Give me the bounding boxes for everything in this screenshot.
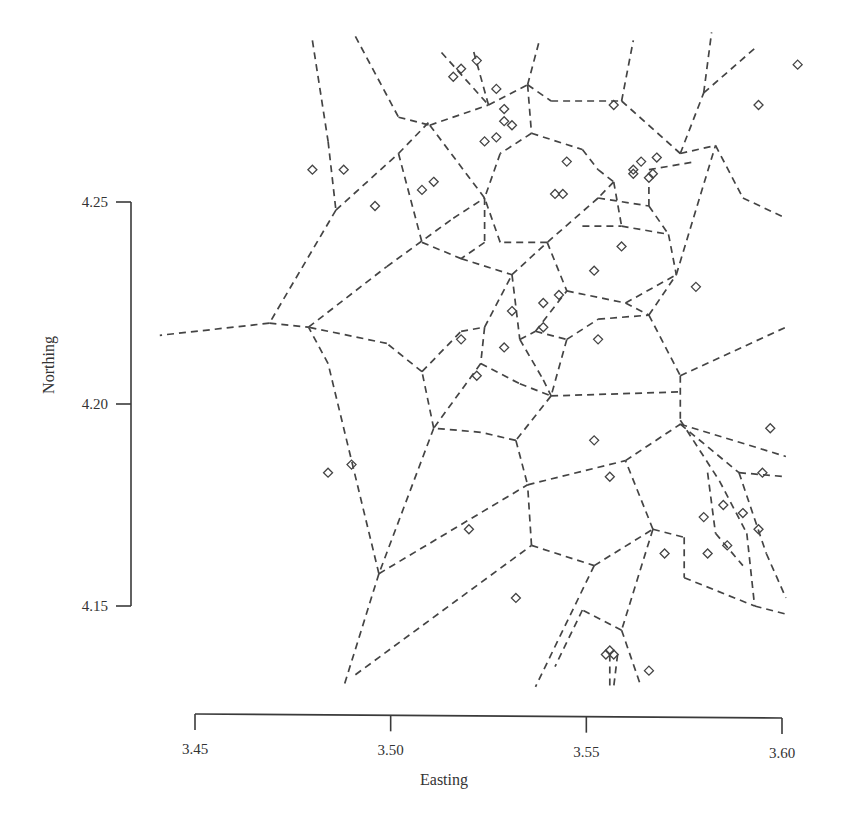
voronoi-edge [582,150,598,170]
x-axis: 3.453.503.553.60 [182,714,795,761]
site-marker-diamond-icon [605,472,614,481]
voronoi-edge [434,428,481,432]
voronoi-edge [344,574,379,687]
site-marker-diamond-icon [617,242,626,251]
voronoi-edge [684,578,754,606]
voronoi-edge [614,182,622,226]
voronoi-edge [387,343,422,371]
site-marker-diamond-icon [691,282,700,291]
voronoi-edge [567,319,598,339]
site-marker-diamond-icon [492,84,501,93]
site-marker-diamond-icon [703,549,712,558]
voronoi-edge [336,154,399,211]
voronoi-edge [680,424,786,456]
voronoi-edge [594,529,653,565]
voronoi-edge [485,198,501,242]
voronoi-edge [481,364,520,384]
voronoi-edge [716,145,743,198]
voronoi-edge [626,303,649,315]
voronoi-chart: 4.154.204.25 3.453.503.553.60 Northing E… [0,0,842,828]
site-marker-diamond-icon [507,121,516,130]
voronoi-edge [676,145,715,274]
voronoi-edge [461,327,485,331]
site-marker-diamond-icon [472,371,481,380]
voronoi-edge [481,432,516,440]
voronoi-edge [528,85,532,134]
voronoi-edge [355,36,398,117]
voronoi-edge [622,529,653,630]
site-marker-diamond-icon [660,549,669,558]
voronoi-edge [461,242,485,258]
voronoi-edge [614,655,618,687]
site-marker-diamond-icon [429,177,438,186]
voronoi-edge [626,275,677,303]
voronoi-edge [680,145,715,153]
site-marker-diamond-icon [417,185,426,194]
site-marker-diamond-icon [500,343,509,352]
voronoi-edge [485,154,501,199]
voronoi-edge [160,323,270,335]
site-marker-diamond-icon [594,335,603,344]
voronoi-edge [399,117,430,125]
voronoi-edge [520,331,536,339]
site-marker-diamond-icon [609,101,618,110]
site-marker-diamond-icon [644,666,653,675]
voronoi-edge [269,210,336,323]
site-marker-diamond-icon [652,153,661,162]
voronoi-edge [708,473,716,534]
voronoi-edge [649,162,696,170]
voronoi-edge [512,242,547,274]
voronoi-edge [704,49,755,93]
voronoi-edge [649,206,669,234]
voronoi-edge [387,218,454,266]
site-marker-diamond-icon [738,509,747,518]
x-tick-label: 3.45 [182,741,208,757]
voronoi-edge [766,554,786,598]
voronoi-edge [536,566,595,687]
voronoi-edge [582,610,621,630]
voronoi-edge [532,545,595,565]
site-marker-diamond-icon [308,165,317,174]
voronoi-edge [622,226,669,234]
site-marker-diamond-icon [339,165,348,174]
voronoi-edge [430,105,489,125]
voronoi-edge [680,420,719,481]
site-marker-diamond-icon [347,460,356,469]
y-axis: 4.154.204.25 [82,194,131,614]
voronoi-edge [399,154,423,243]
site-marker-diamond-icon [539,299,548,308]
voronoi-edge [669,234,677,274]
x-axis-title: Easting [420,771,468,789]
voronoi-edge [481,327,485,363]
voronoi-edge [716,533,743,565]
site-marker-diamond-icon [637,157,646,166]
voronoi-edge [547,242,567,291]
voronoi-edge [489,85,528,105]
site-marker-diamond-icon [699,513,708,522]
voronoi-edge [485,275,512,328]
site-marker-diamond-icon [371,202,380,211]
y-tick-label: 4.25 [82,194,108,210]
voronoi-edge [755,606,786,614]
voronoi-edge [399,121,430,153]
voronoi-edge [622,40,634,101]
voronoi-edge [269,323,308,327]
site-marker-diamond-icon [590,266,599,275]
site-marker-diamond-icon [457,335,466,344]
voronoi-edge [547,198,598,242]
voronoi-edge [626,424,681,460]
site-marker-diamond-icon [507,307,516,316]
y-axis-title: Northing [40,336,58,394]
x-tick-label: 3.55 [573,744,599,760]
voronoi-edge [649,275,676,315]
site-marker-diamond-icon [754,101,763,110]
voronoi-edge [528,85,552,101]
voronoi-edge [551,339,567,396]
voronoi-edge [704,32,712,93]
voronoi-edge [649,315,680,376]
voronoi-edge [309,267,387,328]
voronoi-edge [422,372,434,429]
voronoi-edge [598,182,614,198]
voronoi-edge [598,315,649,319]
voronoi-edge [536,331,567,339]
